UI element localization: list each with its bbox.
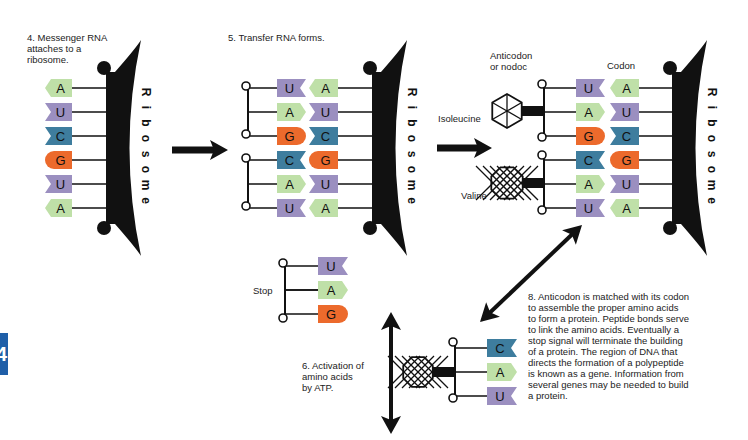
panel-2-transfer-rna: UAAUGCCGAUUA: [242, 79, 372, 217]
double-arrow-diagonal: [480, 225, 582, 322]
svg-text:G: G: [583, 129, 593, 144]
double-arrow-vertical: [381, 312, 401, 434]
ribosome-label: i: [139, 106, 153, 109]
panel-3-anticodon-codon: UAAUGCCGAUUA: [476, 79, 672, 217]
svg-text:U: U: [321, 105, 330, 120]
svg-text:C: C: [56, 129, 65, 144]
svg-text:A: A: [321, 201, 330, 216]
nucleotide-A: A: [309, 79, 338, 97]
isoleucine-hexagon-icon: [492, 94, 521, 128]
nucleotide-U: U: [309, 103, 338, 121]
nucleotide-U: U: [576, 199, 605, 217]
stop-codon-trna: UAG: [279, 257, 348, 323]
nucleotide-U: U: [318, 257, 348, 275]
svg-text:G: G: [284, 129, 294, 144]
nucleotide-A: A: [610, 199, 639, 217]
nucleotide-U: U: [487, 387, 517, 405]
svg-text:A: A: [622, 201, 631, 216]
nucleotide-C: C: [309, 127, 338, 145]
svg-text:C: C: [321, 129, 330, 144]
ribosome-label: i: [705, 106, 719, 109]
svg-text:A: A: [496, 365, 505, 380]
nucleotide-A: A: [576, 175, 605, 193]
ribosome-label: R: [705, 88, 719, 97]
ribosome-label: m: [139, 180, 153, 191]
svg-text:U: U: [584, 201, 593, 216]
svg-text:G: G: [621, 153, 631, 168]
svg-text:A: A: [285, 177, 294, 192]
svg-text:A: A: [321, 81, 330, 96]
nucleotide-A: A: [277, 103, 306, 121]
svg-text:A: A: [327, 283, 336, 298]
svg-text:A: A: [622, 81, 631, 96]
nucleotide-G: G: [610, 151, 639, 169]
ribosome-label: m: [705, 180, 719, 191]
nucleotide-U: U: [576, 79, 605, 97]
nucleotide-U: U: [610, 103, 639, 121]
ribosome-2: Ribosome: [363, 40, 419, 256]
nucleotide-A: A: [487, 363, 517, 381]
ribosome-label: b: [405, 119, 419, 126]
nucleotide-A: A: [277, 175, 306, 193]
nucleotide-C: C: [576, 151, 605, 169]
nucleotide-G: G: [318, 305, 348, 323]
activation-trna: CAU: [388, 338, 517, 405]
nucleotide-C: C: [277, 151, 306, 169]
nucleotide-U: U: [277, 79, 306, 97]
ribosome-label: s: [139, 151, 153, 158]
ribosome-label: o: [405, 166, 419, 173]
arrow-step-4-to-5: [172, 140, 228, 160]
svg-text:C: C: [285, 153, 294, 168]
ribosome-label: R: [139, 88, 153, 97]
svg-text:U: U: [56, 105, 65, 120]
ribosome-label: R: [405, 88, 419, 97]
svg-text:U: U: [584, 81, 593, 96]
arrow-step-5-to-7: [437, 138, 492, 158]
svg-text:C: C: [495, 341, 504, 356]
ribosome-label: m: [405, 180, 419, 191]
svg-text:U: U: [56, 177, 65, 192]
nucleotide-U: U: [309, 175, 338, 193]
nucleotide-U: U: [45, 103, 72, 121]
ribosome-1: Ribosome: [97, 40, 153, 256]
svg-text:U: U: [622, 105, 631, 120]
ribosome-label: s: [705, 151, 719, 158]
nucleotide-A: A: [576, 103, 605, 121]
nucleotide-G: G: [309, 151, 338, 169]
svg-text:C: C: [584, 153, 593, 168]
protein-synthesis-diagram: AUCGUARibosomeUAAUGCCGAUUARibosomeUAAUGC…: [0, 0, 748, 440]
ribosome-label: e: [139, 197, 153, 204]
svg-text:G: G: [320, 153, 330, 168]
nucleotide-C: C: [45, 127, 72, 145]
ribosome-label: e: [405, 197, 419, 204]
nucleotide-G: G: [45, 151, 72, 169]
nucleotide-U: U: [610, 175, 639, 193]
svg-text:U: U: [326, 259, 335, 274]
ribosome-label: s: [405, 151, 419, 158]
ribosome-label: i: [405, 106, 419, 109]
ribosome-label: o: [139, 135, 153, 142]
panel-1-mrna-ribosome: AUCGUA: [45, 79, 106, 217]
svg-text:A: A: [584, 177, 593, 192]
nucleotide-C: C: [487, 339, 517, 357]
ribosome-label: b: [705, 119, 719, 126]
ribosome-label: o: [139, 166, 153, 173]
nucleotide-A: A: [309, 199, 338, 217]
nucleotide-A: A: [45, 79, 72, 97]
svg-text:C: C: [622, 129, 631, 144]
svg-text:U: U: [622, 177, 631, 192]
nucleotide-U: U: [277, 199, 306, 217]
svg-text:G: G: [326, 307, 336, 322]
svg-text:U: U: [495, 389, 504, 404]
ribosome-label: o: [705, 166, 719, 173]
svg-text:A: A: [56, 201, 65, 216]
nucleotide-G: G: [277, 127, 306, 145]
ribosome-label: e: [705, 197, 719, 204]
ribosome-label: o: [405, 135, 419, 142]
nucleotide-A: A: [45, 199, 72, 217]
ribosome-3: Ribosome: [663, 40, 719, 256]
nucleotide-U: U: [45, 175, 72, 193]
nucleotide-A: A: [610, 79, 639, 97]
ribosome-label: b: [139, 119, 153, 126]
svg-text:U: U: [285, 81, 294, 96]
